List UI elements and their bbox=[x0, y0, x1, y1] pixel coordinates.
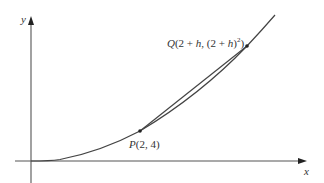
point-p bbox=[138, 129, 142, 133]
x-axis-label: x bbox=[304, 166, 309, 177]
point-q-name: Q bbox=[167, 37, 175, 49]
y-axis-label: y bbox=[21, 14, 26, 25]
point-q-part2: , (2 + bbox=[201, 37, 227, 49]
point-q-part1: (2 + bbox=[175, 37, 196, 49]
x-axis-arrow-icon bbox=[298, 158, 307, 164]
point-q bbox=[245, 44, 249, 48]
point-q-label: Q(2 + h, (2 + h)2) bbox=[167, 38, 244, 49]
secant-diagram bbox=[0, 0, 324, 183]
point-p-coords: (2, 4) bbox=[136, 138, 160, 150]
secant-line bbox=[140, 46, 247, 131]
point-q-part4: ) bbox=[240, 37, 244, 49]
point-p-label: P(2, 4) bbox=[129, 139, 160, 150]
point-p-name: P bbox=[129, 138, 136, 150]
y-axis-arrow-icon bbox=[28, 16, 34, 25]
